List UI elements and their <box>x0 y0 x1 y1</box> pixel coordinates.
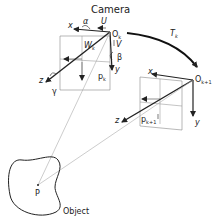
diagram-canvas: Camera x α U Ok V β y Wk z γ pk <box>0 0 213 221</box>
axis-x-k <box>74 29 110 32</box>
axis-x-k-label: x <box>67 21 73 30</box>
alpha-label: α <box>83 17 89 26</box>
point-p <box>37 184 39 186</box>
camera-motion-diagram: Camera x α U Ok V β y Wk z γ pk <box>0 0 213 221</box>
axis-y-k-label: y <box>114 65 120 74</box>
ray-to-camera-k <box>38 32 110 185</box>
origin-k1-label: Ok+1 <box>195 75 212 85</box>
w-label: Wk <box>84 41 96 51</box>
object-shape <box>9 157 61 215</box>
ray-to-camera-k1 <box>38 80 193 185</box>
beta-label: β <box>117 53 122 62</box>
point-p-label: P <box>35 189 40 198</box>
proj-point-k1-label: pk+1 <box>141 115 156 125</box>
v-label: V <box>116 40 122 49</box>
axis-y-k1-label: y <box>194 118 200 127</box>
proj-point-k-label: pk <box>98 72 106 82</box>
camera-title: Camera <box>91 4 130 15</box>
axis-x-k1-label: x <box>147 67 153 76</box>
axis-x-k1 <box>152 74 193 80</box>
camera-k-frame: x α U Ok V β y Wk z γ pk <box>38 17 122 96</box>
axis-z-k1 <box>122 80 193 122</box>
gamma-label: γ <box>52 87 57 96</box>
axis-z-k1-label: z <box>114 116 120 125</box>
u-label: U <box>101 17 107 26</box>
origin-k-label: Ok <box>112 30 121 40</box>
camera-k1-frame: x Ok+1 y z pk+1 <box>114 67 212 130</box>
transform-label: Tk <box>170 29 179 39</box>
object-label: Object <box>63 207 89 216</box>
axis-z-k-label: z <box>38 76 44 85</box>
transform-arrow <box>127 33 197 67</box>
